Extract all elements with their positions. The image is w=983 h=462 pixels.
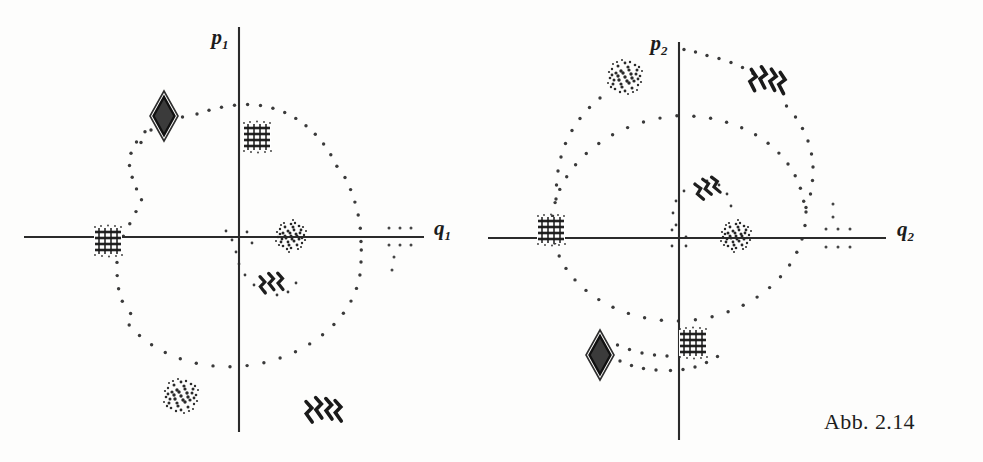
panel-right: p2 q2 [488, 31, 915, 440]
diamond-marker[interactable] [586, 330, 614, 380]
square-marker[interactable] [679, 327, 708, 360]
hatched-square-marker[interactable] [94, 225, 123, 258]
diamond-marker[interactable] [150, 91, 178, 141]
y-axis-label-left: p1 [210, 25, 229, 52]
figure-container: p1 q1 [0, 0, 983, 462]
y-axis-label-right: p2 [649, 31, 669, 58]
figure-caption: Abb. 2.14 [824, 409, 915, 434]
zigzag-marker-large[interactable] [750, 66, 786, 93]
figure-canvas: p1 q1 [0, 0, 983, 462]
zigzag-marker-small[interactable] [259, 272, 284, 294]
blob-marker[interactable] [607, 59, 643, 95]
blob-marker[interactable] [163, 378, 199, 414]
x-axis-label-right: q2 [897, 217, 915, 244]
x-axis-label-left: q1 [434, 216, 451, 243]
axis-trail-dots-left [388, 227, 413, 272]
panel-left: p1 q1 [24, 25, 451, 432]
zigzag-marker-small[interactable] [693, 175, 721, 201]
zigzag-marker-large[interactable] [305, 395, 343, 425]
square-marker[interactable] [243, 121, 272, 154]
orbit-ellipse-right [551, 48, 815, 372]
cloud-marker[interactable] [720, 219, 752, 253]
hatched-square-marker[interactable] [537, 214, 566, 247]
axis-trail-dots-right [825, 203, 852, 249]
